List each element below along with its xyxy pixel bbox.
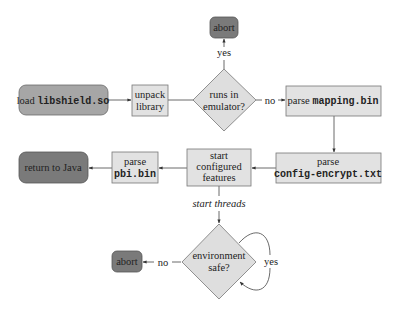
node-abort-bottom-label: abort [116, 256, 138, 267]
node-load-prefix: load [17, 95, 38, 106]
node-mapping-prefix: parse [288, 95, 313, 106]
node-start-features: start configured features [187, 149, 251, 186]
node-config-line1: parse [317, 156, 339, 167]
node-parse-config: parse config-encrypt.txt [274, 153, 382, 183]
node-unpack-line1: unpack [135, 89, 166, 100]
node-load-libshield: load libshield.so [17, 85, 110, 115]
node-mapping-code: mapping.bin [312, 96, 378, 107]
node-features-line2: configured [196, 161, 242, 172]
node-pbi-line1: parse [124, 156, 146, 167]
svg-text:load libshield.so: load libshield.so [17, 95, 110, 107]
node-parse-mapping: parse mapping.bin [286, 86, 381, 116]
node-return-to-java: return to Java [19, 152, 88, 183]
node-parse-pbi: parse pbi.bin [112, 152, 158, 183]
edge-label-yes-top: yes [217, 47, 231, 58]
node-pbi-code: pbi.bin [114, 169, 156, 180]
node-abort-top-label: abort [213, 22, 235, 33]
edge-label-start-threads: start threads [193, 198, 246, 209]
flowchart: yes no start threads no yes abort load l… [0, 0, 396, 315]
node-env-line2: safe? [208, 262, 230, 273]
edge-label-no-top: no [265, 95, 276, 106]
edge-label-no-bottom: no [158, 257, 169, 268]
node-unpack-line2: library [136, 101, 165, 112]
node-features-line3: features [202, 172, 235, 183]
node-features-line1: start [210, 150, 228, 161]
node-env-line1: environment [192, 250, 245, 261]
node-abort-top: abort [210, 17, 238, 38]
node-emulator-line1: runs in [210, 89, 240, 100]
node-unpack-library: unpack library [132, 85, 168, 116]
edge-label-yes-bottom: yes [264, 256, 278, 267]
node-load-code: libshield.so [37, 96, 109, 107]
node-emulator-line2: emulator? [203, 101, 245, 112]
node-abort-bottom: abort [112, 251, 142, 272]
node-runs-in-emulator: runs in emulator? [193, 69, 256, 131]
node-environment-safe: environment safe? [182, 224, 256, 299]
node-return-label: return to Java [24, 162, 81, 173]
svg-text:parse mapping.bin: parse mapping.bin [288, 95, 379, 107]
node-config-code: config-encrypt.txt [274, 169, 382, 180]
